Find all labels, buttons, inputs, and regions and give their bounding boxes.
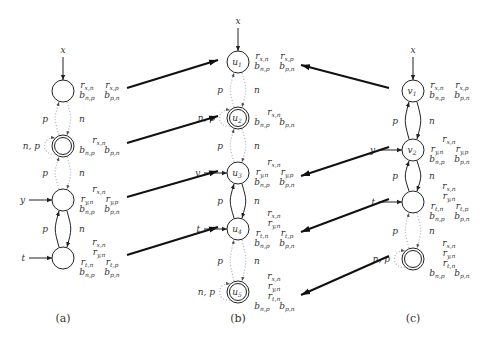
edge-label-p: p xyxy=(392,171,398,181)
svg-text:bn,p: bn,p xyxy=(254,177,270,189)
svg-text:bn,p: bn,p xyxy=(429,211,445,223)
state-annotation: rx,nrx,pbn,pbp,n xyxy=(254,51,295,73)
svg-text:bp,n: bp,n xyxy=(454,90,470,102)
mapping-arrow-v2-u3 xyxy=(301,147,389,176)
svg-text:bn,p: bn,p xyxy=(254,61,270,73)
panel-caption: (b) xyxy=(230,312,246,325)
mapping-arrow-a2-u2 xyxy=(127,116,218,143)
edge-label-n: n xyxy=(429,171,435,181)
svg-text:bn,p: bn,p xyxy=(429,154,445,166)
edge-label-n: n xyxy=(79,224,85,234)
svg-text:bp,n: bp,n xyxy=(454,154,470,166)
svg-text:bn,p: bn,p xyxy=(79,145,95,157)
edge-label-p: p xyxy=(392,226,398,236)
svg-text:bn,p: bn,p xyxy=(254,301,270,313)
svg-text:bn,p: bn,p xyxy=(79,267,95,279)
transition-u1-u2: pn xyxy=(217,73,260,107)
svg-text:n, p: n, p xyxy=(23,141,41,151)
input-arrow-y: y xyxy=(369,145,402,155)
svg-text:bp,n: bp,n xyxy=(104,145,120,157)
state-annotation: rx,nrx,pbn,pbp,n xyxy=(429,80,470,102)
svg-text:bn,p: bn,p xyxy=(254,117,270,129)
state-v1: v1xrx,nrx,pbn,pbp,n xyxy=(402,45,470,102)
svg-text:n, p: n, p xyxy=(198,287,216,297)
input-arrow-t: t xyxy=(371,197,402,207)
state-a3: yrx,nry,nry,pbn,pbp,n xyxy=(19,184,120,216)
svg-text:bp,n: bp,n xyxy=(279,177,295,189)
edge-label-n: n xyxy=(254,256,260,266)
transition-u3-u4: pn xyxy=(217,184,260,218)
edge-label-p: p xyxy=(217,196,223,206)
svg-text:bn,p: bn,p xyxy=(79,204,95,216)
svg-text:rx,n: rx,n xyxy=(442,134,456,145)
mapping-arrow-a3-u3 xyxy=(127,171,218,197)
state-c4: n, prx,nry,nrt,nbn,pbp,n xyxy=(373,238,470,280)
edge-label-p: p xyxy=(217,141,223,151)
panel-caption: (a) xyxy=(55,312,70,325)
state-annotation: rx,nbn,pbp,n xyxy=(254,107,295,129)
svg-text:x: x xyxy=(410,45,415,55)
svg-text:bp,n: bp,n xyxy=(454,268,470,280)
svg-text:y: y xyxy=(19,195,26,205)
transition-a3-a4: pn xyxy=(42,211,85,247)
state-annotation: rx,nry,nry,pbn,pbp,n xyxy=(429,134,470,166)
state-annotation: rx,nry,nrt,nrt,pbn,pbp,n xyxy=(429,181,470,223)
state-annotation: rx,nry,nrt,nrt,pbn,pbp,n xyxy=(254,208,295,250)
automata-diagram: pnpnpnxrx,nrx,pbn,pbp,nn, prx,nbn,pbp,ny… xyxy=(0,0,489,344)
input-arrow-t: t xyxy=(21,253,52,263)
svg-text:x: x xyxy=(235,16,240,26)
svg-text:rx,n: rx,n xyxy=(92,184,106,195)
svg-text:ry,n: ry,n xyxy=(93,247,106,259)
svg-text:bp,n: bp,n xyxy=(279,117,295,129)
mapping-arrow-a4-u4 xyxy=(127,227,218,255)
input-arrow-x: x xyxy=(410,45,415,80)
svg-text:bp,n: bp,n xyxy=(454,211,470,223)
input-arrow-x: x xyxy=(60,45,65,80)
svg-text:x: x xyxy=(60,45,65,55)
state-annotation: rx,nry,nry,pbn,pbp,n xyxy=(254,157,295,189)
mapping-arrow-a1-u1 xyxy=(127,60,218,88)
panel-caption: (c) xyxy=(406,312,421,325)
svg-text:rx,n: rx,n xyxy=(267,157,281,168)
transition-v2-c3: pn xyxy=(392,161,435,191)
state-a4: trx,nry,nrt,nrt,pbn,pbp,n xyxy=(21,237,119,279)
svg-text:bn,p: bn,p xyxy=(79,90,95,102)
svg-text:bp,n: bp,n xyxy=(104,204,120,216)
svg-text:bn,p: bn,p xyxy=(429,90,445,102)
transition-u2-u3: pn xyxy=(217,129,260,162)
panel-a: pnpnpnxrx,nrx,pbn,pbp,nn, prx,nbn,pbp,ny… xyxy=(19,45,120,325)
edge-label-p: p xyxy=(42,168,48,178)
transition-a2-a3: pn xyxy=(42,157,85,189)
state-annotation: rx,nry,nrt,nrt,pbn,pbp,n xyxy=(79,237,120,279)
svg-text:bn,p: bn,p xyxy=(254,238,270,250)
mapping-arrow-c4-u5 xyxy=(301,256,389,295)
state-c3: trx,nry,nrt,nrt,pbn,pbp,n xyxy=(371,181,469,223)
mapping-arrow-c3-u4 xyxy=(301,199,389,232)
edge-label-p: p xyxy=(217,256,223,266)
state-annotation: rx,nbn,pbp,n xyxy=(79,135,120,157)
transition-v1-v2: pn xyxy=(392,102,435,139)
state-annotation: rx,nrx,pbn,pbp,n xyxy=(79,80,120,102)
edge-label-n: n xyxy=(79,168,85,178)
svg-text:bp,n: bp,n xyxy=(279,61,295,73)
edge-label-n: n xyxy=(79,114,85,124)
svg-text:bp,n: bp,n xyxy=(104,90,120,102)
svg-text:bp,n: bp,n xyxy=(104,267,120,279)
svg-text:bp,n: bp,n xyxy=(279,301,295,313)
svg-text:bp,n: bp,n xyxy=(279,238,295,250)
edge-label-n: n xyxy=(254,196,260,206)
svg-text:t: t xyxy=(21,253,25,263)
state-annotation: rx,nry,nrt,nbn,pbp,n xyxy=(429,238,470,280)
svg-text:ry,n: ry,n xyxy=(268,218,281,230)
state-a1: xrx,nrx,pbn,pbp,n xyxy=(52,45,120,102)
edge-label-n: n xyxy=(429,226,435,236)
svg-text:bn,p: bn,p xyxy=(429,268,445,280)
state-a2: n, prx,nbn,pbp,n xyxy=(23,135,120,157)
state-annotation: rx,nry,nrt,nbn,pbp,n xyxy=(254,271,295,313)
state-v2: v2yrx,nry,nry,pbn,pbp,n xyxy=(369,134,470,166)
self-loop: n, p xyxy=(373,251,405,267)
edge-label-p: p xyxy=(42,224,48,234)
self-loop: n, p xyxy=(23,138,55,154)
edge-label-p: p xyxy=(42,114,48,124)
input-arrow-y: y xyxy=(19,195,52,205)
